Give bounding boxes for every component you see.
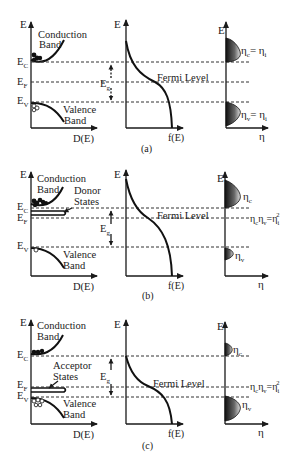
band-gap-indicator: Eg xyxy=(100,211,111,245)
eta-plot-b: E ηc ηv ηcηv=ηi2 η xyxy=(217,172,280,290)
svg-text:D(E): D(E) xyxy=(73,281,94,293)
dos-plot-b: E Conduction Band Donor States Valence B… xyxy=(17,168,101,293)
e-axis-label: E xyxy=(114,18,121,30)
caption-b: (b) xyxy=(142,290,154,302)
dos-plot-c: E Conduction Band Acceptor States Valenc… xyxy=(17,316,97,441)
svg-text:Band: Band xyxy=(37,184,60,195)
svg-text:Eg: Eg xyxy=(100,223,110,237)
f-axis-label: f(E) xyxy=(168,132,184,144)
valence-band-label: Valence xyxy=(63,104,97,115)
electron-concentration-lobe xyxy=(225,180,240,208)
electron-concentration-lobe xyxy=(225,343,232,356)
svg-text:Band: Band xyxy=(63,409,86,420)
fermi-dirac-curve xyxy=(126,356,172,424)
donor-states-band xyxy=(31,211,66,215)
mass-action-law: ηcηv=ηi2 xyxy=(250,211,280,226)
e-axis-label: E xyxy=(218,24,225,36)
fermi-plot-b: E Fermi Level f(E) xyxy=(114,168,209,292)
svg-text:EC: EC xyxy=(17,349,28,363)
hole-concentration-lobe xyxy=(225,396,240,421)
band-gap-indicator: Eg xyxy=(100,359,111,395)
svg-text:ηc: ηc xyxy=(243,190,252,205)
fermi-plot-c: E Fermi Level f(E) xyxy=(114,318,205,440)
svg-text:η: η xyxy=(258,426,264,438)
eta-c-label: ηc= ηi xyxy=(241,44,267,59)
states-label: States xyxy=(74,196,99,207)
hole-concentration-lobe xyxy=(225,248,233,260)
ef-label: EF xyxy=(17,76,27,90)
panel-b: E Conduction Band Donor States Valence B… xyxy=(17,168,280,302)
svg-text:Fermi Level: Fermi Level xyxy=(153,378,205,389)
svg-text:Valence: Valence xyxy=(63,398,97,409)
eta-axis-label: η xyxy=(259,130,265,142)
acceptor-label: Acceptor xyxy=(53,360,92,371)
hole-concentration-lobe xyxy=(226,102,240,126)
ev-label: EV xyxy=(17,240,28,254)
donor-pointer-arrow xyxy=(64,208,72,212)
band-gap-indicator: Eg xyxy=(100,65,111,100)
svg-text:f(E): f(E) xyxy=(168,428,184,440)
caption-c: (c) xyxy=(142,440,153,452)
panel-a: E Conduction Band Valence Band D(E) EC E… xyxy=(17,18,268,155)
svg-text:E: E xyxy=(114,318,121,330)
svg-text:Valence: Valence xyxy=(63,249,97,260)
svg-text:E: E xyxy=(20,316,27,328)
donor-label: Donor xyxy=(74,185,101,196)
svg-text:Conduction: Conduction xyxy=(37,173,87,184)
eta-plot-c: E ηc ηv ηcηv=ηi2 η xyxy=(217,320,280,438)
acceptor-states-band xyxy=(31,388,66,392)
electron-concentration-lobe xyxy=(226,38,240,62)
svg-text:η: η xyxy=(258,278,264,290)
svg-text:Conduction: Conduction xyxy=(37,320,87,331)
fermi-dirac-curve xyxy=(126,41,172,128)
ev-label: EV xyxy=(17,95,28,109)
svg-text:Fermi Level: Fermi Level xyxy=(157,210,209,221)
svg-text:E: E xyxy=(217,320,224,332)
ec-label: EC xyxy=(17,56,28,70)
svg-text:E: E xyxy=(114,168,121,180)
dos-axis-label: D(E) xyxy=(73,133,94,145)
holes xyxy=(32,104,39,112)
svg-text:ηv: ηv xyxy=(235,249,245,264)
svg-text:Band: Band xyxy=(37,331,60,342)
mass-action-law: ηcηv=ηi2 xyxy=(250,379,280,394)
eta-v-label: ηv= ηi xyxy=(241,108,267,123)
e-axis-label: E xyxy=(20,18,27,30)
svg-text:f(E): f(E) xyxy=(168,280,184,292)
panel-c: E Conduction Band Acceptor States Valenc… xyxy=(17,316,280,452)
eg-label: Eg xyxy=(100,78,110,92)
hole xyxy=(34,248,38,252)
fermi-plot-a: E Fermi Level f(E) xyxy=(114,18,209,144)
valence-band-label-2: Band xyxy=(64,115,87,126)
svg-text:E: E xyxy=(20,168,27,180)
svg-text:ηv: ηv xyxy=(242,398,252,413)
svg-text:Band: Band xyxy=(63,260,86,271)
caption-a: (a) xyxy=(141,143,152,155)
holes xyxy=(32,398,44,407)
states-label: States xyxy=(53,371,78,382)
fermi-level-label: Fermi Level xyxy=(157,72,209,83)
svg-text:Eg: Eg xyxy=(100,371,110,385)
svg-text:E: E xyxy=(217,172,224,184)
fermi-dirac-curve xyxy=(126,179,172,276)
semiconductor-diagram: E Conduction Band Valence Band D(E) EC E… xyxy=(0,0,297,456)
conduction-band-label-2: Band xyxy=(39,39,62,50)
svg-text:D(E): D(E) xyxy=(73,429,94,441)
